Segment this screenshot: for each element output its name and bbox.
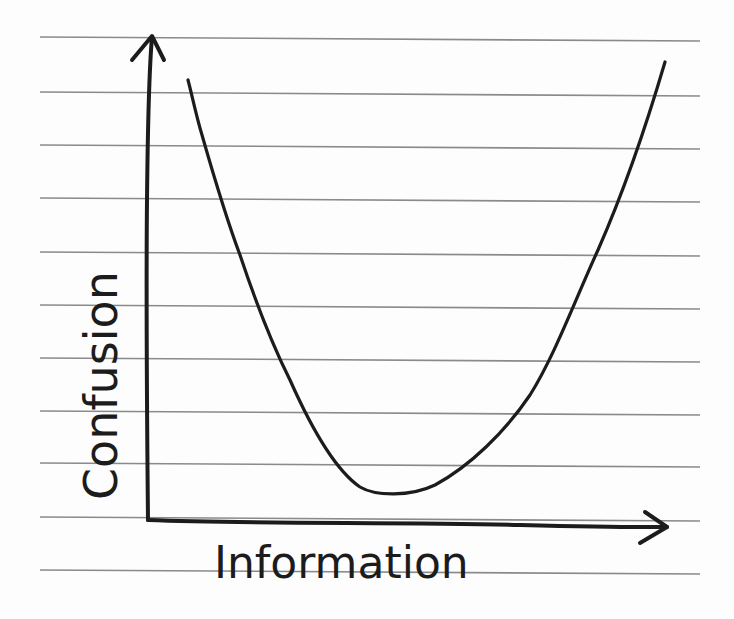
ruled-line <box>40 463 700 467</box>
hand-drawn-chart: Confusion Information <box>0 0 734 619</box>
ruled-line <box>40 358 700 362</box>
confusion-curve <box>188 62 665 494</box>
ruled-line <box>40 92 700 96</box>
x-axis-label: Information <box>214 537 469 588</box>
ruled-line <box>40 517 700 521</box>
ruled-line <box>40 305 700 309</box>
y-axis <box>132 36 164 520</box>
ruled-line <box>40 145 700 149</box>
ruled-lines <box>40 37 700 574</box>
ruled-line <box>40 37 700 41</box>
ruled-line <box>40 252 700 256</box>
ruled-line <box>40 198 700 202</box>
ruled-line <box>40 411 700 415</box>
lined-paper: Confusion Information <box>0 0 734 619</box>
y-axis-arrowhead-icon <box>132 36 164 60</box>
y-axis-label: Confusion <box>74 271 128 500</box>
